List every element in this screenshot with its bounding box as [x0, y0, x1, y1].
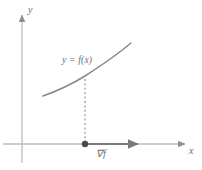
diagram-svg	[0, 0, 202, 170]
curve-label: y = f(x)	[62, 56, 92, 66]
function-curve	[43, 43, 131, 96]
evaluation-point	[82, 141, 88, 147]
figure-canvas: y x y = f(x) ∇f	[0, 0, 202, 170]
gradient-vector-label: ∇f	[96, 149, 106, 159]
x-axis-label: x	[189, 146, 193, 156]
y-axis-label: y	[28, 5, 32, 15]
